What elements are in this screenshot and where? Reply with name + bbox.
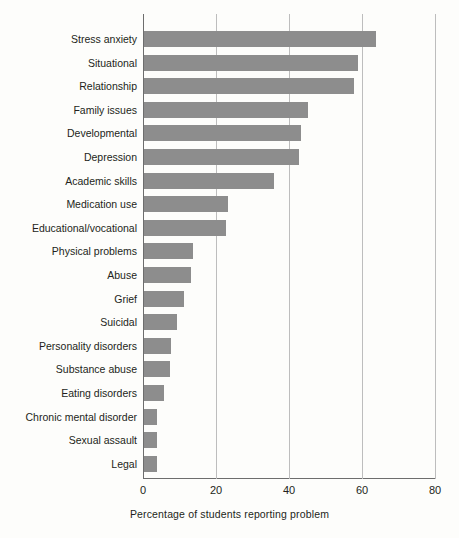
category-label: Eating disorders [0,385,137,401]
bar [144,149,299,165]
bar [144,456,157,472]
category-label: Developmental [0,125,137,141]
category-label: Sexual assault [0,432,137,448]
category-label: Substance abuse [0,361,137,377]
bar [144,291,184,307]
category-label: Academic skills [0,173,137,189]
bar [144,78,354,94]
bar [144,385,164,401]
x-tick-label-0: 0 [123,484,163,496]
bar [144,173,274,189]
bar [144,409,157,425]
category-label: Legal [0,456,137,472]
category-label: Grief [0,291,137,307]
category-label: Physical problems [0,243,137,259]
gridline-60 [362,14,363,479]
bar [144,314,177,330]
category-label: Family issues [0,102,137,118]
category-label: Chronic mental disorder [0,409,137,425]
bar [144,267,191,283]
category-label: Situational [0,55,137,71]
bar [144,243,193,259]
bar [144,196,228,212]
category-label: Stress anxiety [0,31,137,47]
category-label: Relationship [0,78,137,94]
bar [144,125,301,141]
bar [144,31,376,47]
x-tick-label-40: 40 [269,484,309,496]
category-label: Abuse [0,267,137,283]
x-tick-label-60: 60 [342,484,382,496]
category-label: Personality disorders [0,338,137,354]
category-label: Depression [0,149,137,165]
category-label: Medication use [0,196,137,212]
bar [144,220,226,236]
bar [144,102,308,118]
x-axis-title: Percentage of students reporting problem [0,508,459,520]
category-label: Educational/vocational [0,220,137,236]
bar-chart-figure: Stress anxietySituationalRelationshipFam… [0,0,459,538]
bar [144,55,358,71]
x-tick-label-20: 20 [196,484,236,496]
category-label: Suicidal [0,314,137,330]
bar [144,432,157,448]
bar [144,361,170,377]
x-tick-label-80: 80 [415,484,455,496]
gridline-80 [435,14,436,479]
bar [144,338,171,354]
plot-area [143,14,435,479]
